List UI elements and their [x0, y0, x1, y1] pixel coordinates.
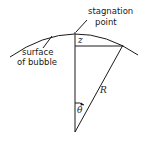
radius-r-label: R [99, 85, 107, 95]
stagnation-label-line2: point [95, 17, 117, 27]
surface-label-line1: surface [22, 47, 53, 57]
radius-line [75, 45, 123, 132]
stagnation-label-line1: stagnation [88, 6, 133, 16]
surface-label-line2: of bubble [17, 57, 57, 67]
angle-theta-label: θ [77, 105, 83, 115]
height-z-label: z [77, 35, 83, 45]
stagnation-leader-line [76, 20, 87, 32]
bubble-geometry-diagram: stagnation point surface of bubble z R θ [0, 0, 146, 141]
